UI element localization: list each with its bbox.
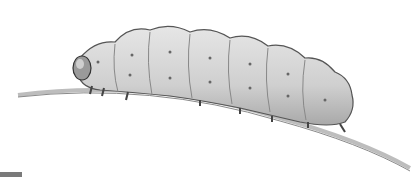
illustration xyxy=(0,0,416,185)
scale-bar xyxy=(0,172,22,177)
caterpillar-drawing xyxy=(0,0,416,185)
caterpillar-body xyxy=(78,26,353,125)
